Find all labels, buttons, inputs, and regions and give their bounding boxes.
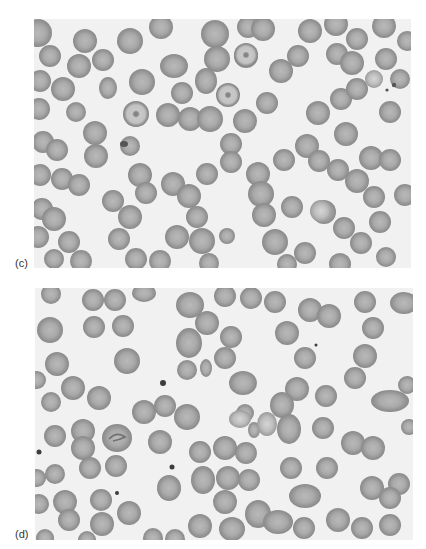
blood-smear-image-c xyxy=(34,19,411,268)
panel-label-c: (c) xyxy=(15,257,28,269)
micrograph-panel-d xyxy=(35,288,413,540)
panel-label-d: (d) xyxy=(15,528,28,540)
blood-smear-image-d xyxy=(35,288,413,540)
micrograph-panel-c xyxy=(34,19,411,268)
